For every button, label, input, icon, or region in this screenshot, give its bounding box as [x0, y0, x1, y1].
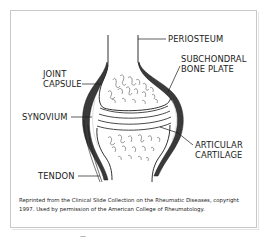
- upper-bone: [99, 35, 170, 111]
- label-subchondral-line1: SUBCHONDRAL: [181, 54, 246, 64]
- label-periosteum: PERIOSTEUM: [168, 34, 223, 44]
- label-synovium: SYNOVIUM: [22, 112, 68, 122]
- label-joint-capsule-line2: CAPSULE: [43, 79, 82, 89]
- label-tendon: TENDON: [38, 171, 75, 181]
- label-articular-line2: CARTILAGE: [195, 150, 243, 160]
- label-articular-line1: ARTICULAR: [195, 140, 243, 150]
- lower-trabecular-bone: [108, 135, 160, 161]
- caption-line-2: 1997. Used by permission of the American…: [19, 205, 251, 214]
- label-subchondral-line2: BONE PLATE: [181, 64, 234, 74]
- footer-mark: —: [80, 233, 86, 238]
- figure-caption: Reprinted from the Clinical Slide Collec…: [19, 196, 251, 214]
- label-joint-capsule-line1: JOINT: [43, 69, 66, 79]
- caption-line-1: Reprinted from the Clinical Slide Collec…: [19, 196, 251, 205]
